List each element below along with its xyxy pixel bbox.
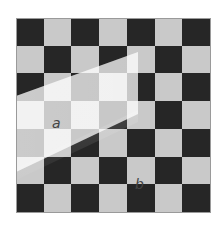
dark-square — [71, 18, 99, 46]
label-a: a — [52, 115, 61, 131]
dark-square — [182, 73, 210, 101]
light-square — [16, 46, 44, 74]
light-square — [99, 18, 127, 46]
light-square — [44, 18, 72, 46]
light-square — [155, 18, 183, 46]
dark-square — [44, 46, 72, 74]
dark-square — [182, 18, 210, 46]
label-b: b — [135, 176, 144, 192]
dark-square — [127, 129, 155, 157]
checkerboard — [16, 18, 210, 212]
dark-square — [71, 184, 99, 212]
light-square — [99, 184, 127, 212]
light-square — [182, 157, 210, 185]
dark-square — [16, 18, 44, 46]
dark-square — [182, 129, 210, 157]
light-square — [155, 73, 183, 101]
light-square — [44, 184, 72, 212]
light-square — [155, 184, 183, 212]
light-square — [71, 157, 99, 185]
dark-square — [99, 157, 127, 185]
light-square — [155, 129, 183, 157]
dark-square — [155, 157, 183, 185]
dark-square — [155, 101, 183, 129]
dark-square — [182, 184, 210, 212]
dark-square — [127, 18, 155, 46]
light-square — [182, 46, 210, 74]
dark-square — [155, 46, 183, 74]
light-square — [182, 101, 210, 129]
dark-square — [16, 184, 44, 212]
